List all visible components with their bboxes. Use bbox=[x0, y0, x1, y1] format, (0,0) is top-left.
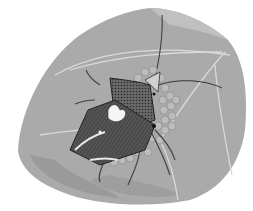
illustration bbox=[0, 0, 253, 211]
bug-on-leaf-illustration bbox=[0, 0, 253, 211]
